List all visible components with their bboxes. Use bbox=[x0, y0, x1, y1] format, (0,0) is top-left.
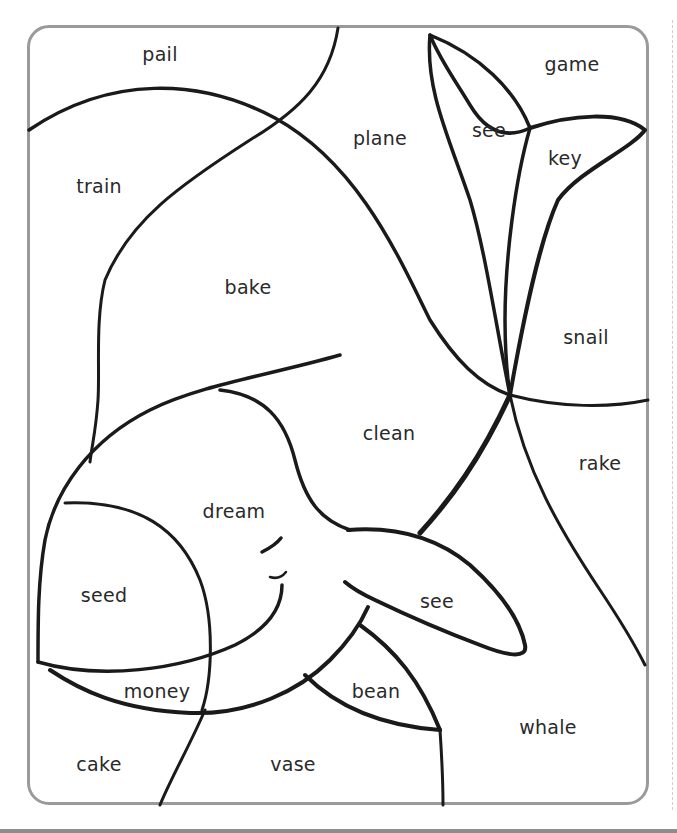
word-seed: seed bbox=[81, 584, 128, 606]
region-line bbox=[65, 503, 210, 710]
region-line bbox=[510, 395, 645, 665]
word-dream: dream bbox=[203, 500, 266, 522]
region-line bbox=[440, 730, 443, 805]
word-game: game bbox=[544, 53, 599, 75]
word-see-fin: see bbox=[420, 590, 454, 612]
word-bean: bean bbox=[352, 680, 401, 702]
region-line bbox=[29, 88, 510, 395]
word-money: money bbox=[124, 680, 191, 702]
whale-tail-left-edge bbox=[429, 35, 510, 395]
region-line bbox=[360, 625, 440, 730]
word-clean: clean bbox=[363, 422, 416, 444]
region-line bbox=[160, 710, 205, 805]
region-line bbox=[510, 395, 648, 405]
word-cake: cake bbox=[76, 753, 121, 775]
coloring-worksheet: pail game see plane key train bake snail… bbox=[0, 0, 677, 833]
word-see-tail: see bbox=[472, 119, 506, 141]
whale-line-art bbox=[0, 0, 677, 833]
whale-eye bbox=[262, 538, 281, 552]
whale-smile-crease bbox=[270, 572, 286, 578]
word-bake: bake bbox=[225, 276, 272, 298]
word-key: key bbox=[548, 147, 582, 169]
word-pail: pail bbox=[142, 43, 177, 65]
word-plane: plane bbox=[353, 127, 407, 149]
region-line bbox=[420, 395, 510, 533]
word-vase: vase bbox=[270, 753, 316, 775]
word-whale: whale bbox=[519, 716, 577, 738]
word-rake: rake bbox=[579, 452, 622, 474]
whale-mouth-line bbox=[38, 585, 282, 671]
word-train: train bbox=[76, 175, 122, 197]
word-snail: snail bbox=[563, 326, 609, 348]
region-line bbox=[38, 355, 340, 662]
